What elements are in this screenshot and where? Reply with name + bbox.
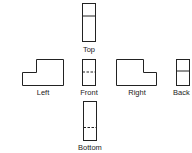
bottom-view: Bottom	[78, 102, 102, 153]
bottom-view-label: Bottom	[78, 143, 102, 152]
right-view: Right	[117, 60, 157, 98]
left-view-label: Left	[37, 88, 50, 97]
back-view: Back	[173, 60, 190, 98]
top-view-label: Top	[83, 45, 95, 54]
back-view-label: Back	[173, 88, 190, 97]
right-view-label: Right	[128, 88, 146, 97]
left-view: Left	[23, 60, 64, 98]
front-view: Front	[80, 60, 98, 98]
orthographic-views-diagram: Top Left Front Right Back Bottom	[0, 0, 192, 152]
front-view-label: Front	[80, 88, 98, 97]
top-view: Top	[83, 4, 96, 55]
